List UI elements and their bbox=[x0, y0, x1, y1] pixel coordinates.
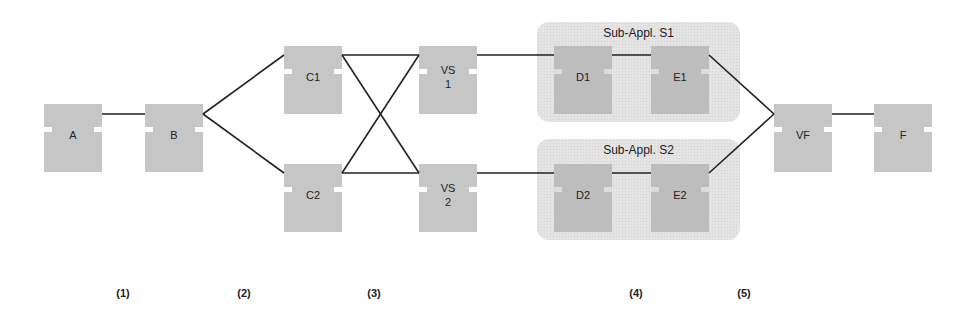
step-label: (3) bbox=[367, 287, 380, 299]
node-label: B bbox=[145, 128, 203, 142]
node-label: F bbox=[874, 128, 932, 142]
node-f: F bbox=[874, 104, 932, 172]
pipeline-diagram: Sub-Appl. S1Sub-Appl. S2 ABC1C2VS 1VS 2D… bbox=[0, 0, 973, 316]
node-label: E2 bbox=[651, 188, 709, 202]
node-label: E1 bbox=[651, 70, 709, 84]
node-e1: E1 bbox=[651, 46, 709, 114]
node-label: VS 1 bbox=[419, 63, 477, 91]
node-b: B bbox=[145, 104, 203, 172]
group-title: Sub-Appl. S2 bbox=[537, 143, 740, 157]
edge-c1-vs2 bbox=[342, 55, 419, 173]
node-label: VS 2 bbox=[419, 181, 477, 209]
node-a: A bbox=[44, 104, 102, 172]
step-label: (5) bbox=[737, 287, 750, 299]
edge-c2-vs1 bbox=[342, 55, 419, 173]
node-label: A bbox=[44, 128, 102, 142]
node-c2: C2 bbox=[284, 164, 342, 232]
node-vf: VF bbox=[774, 104, 832, 172]
node-label: D1 bbox=[554, 70, 612, 84]
step-label: (1) bbox=[116, 287, 129, 299]
node-label: D2 bbox=[554, 188, 612, 202]
node-vs1: VS 1 bbox=[419, 46, 477, 114]
node-c1: C1 bbox=[284, 46, 342, 114]
node-label: C2 bbox=[284, 188, 342, 202]
node-label: VF bbox=[774, 128, 832, 142]
group-title: Sub-Appl. S1 bbox=[537, 26, 740, 40]
step-label: (2) bbox=[237, 287, 250, 299]
node-d2: D2 bbox=[554, 164, 612, 232]
node-vs2: VS 2 bbox=[419, 164, 477, 232]
node-label: C1 bbox=[284, 70, 342, 84]
node-d1: D1 bbox=[554, 46, 612, 114]
node-e2: E2 bbox=[651, 164, 709, 232]
step-label: (4) bbox=[629, 287, 642, 299]
edge-b-c1 bbox=[203, 55, 284, 114]
edge-b-c2 bbox=[203, 114, 284, 173]
